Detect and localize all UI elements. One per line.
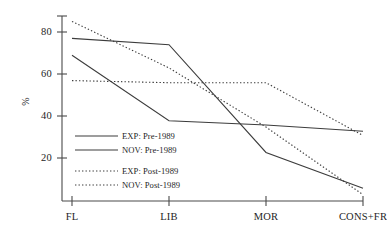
y-axis-label: % (20, 97, 31, 105)
legend-label-exp-post-1989: EXP: Post-1989 (122, 166, 178, 176)
y-tick-label-60: 60 (26, 68, 52, 79)
series-line-exp-pre-1989 (72, 38, 363, 188)
x-tick-label-mor: MOR (254, 211, 279, 222)
x-tick-label-lib: LIB (160, 211, 178, 222)
legend-label-exp-pre-1989: EXP: Pre-1989 (122, 131, 175, 141)
y-tick-label-80: 80 (26, 26, 52, 37)
y-tick-label-40: 40 (26, 110, 52, 121)
x-tick-label-cons-fr: CONS+FR (339, 211, 387, 222)
legend-label-nov-pre-1989: NOV: Pre-1989 (122, 145, 177, 155)
series-lines-group (72, 21, 363, 194)
x-tick-label-fl: FL (66, 211, 79, 222)
legend-sample-lines (75, 136, 118, 185)
chart-figure: % 80 60 40 20 FL LIB MOR CONS+FR EXP: Pr… (0, 0, 387, 236)
chart-plot-area (0, 0, 387, 236)
series-line-exp-post-1989 (72, 21, 363, 194)
series-line-nov-post-1989 (72, 81, 363, 136)
y-tick-label-20: 20 (26, 152, 52, 163)
series-line-nov-pre-1989 (72, 55, 363, 131)
legend-label-nov-post-1989: NOV: Post-1989 (122, 180, 180, 190)
